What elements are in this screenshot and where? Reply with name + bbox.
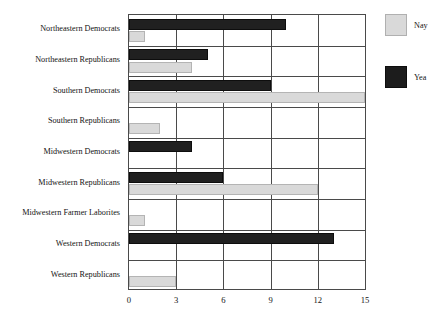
- category-separator: [129, 138, 365, 139]
- category-label: Midwestern Democrats: [0, 147, 120, 156]
- category-axis-labels: Northeastern DemocratsNortheastern Repub…: [0, 14, 124, 290]
- gridline-vertical: [271, 15, 272, 289]
- x-tick-label: 12: [314, 295, 323, 305]
- legend-item-yea[interactable]: Yea: [385, 66, 426, 88]
- category-separator: [129, 76, 365, 77]
- category-separator: [129, 260, 365, 261]
- bar-yea: [129, 172, 223, 183]
- bar-yea: [129, 233, 334, 244]
- chart-legend: NayYea: [385, 14, 443, 104]
- bar-yea: [129, 80, 271, 91]
- plot-area: [128, 14, 366, 290]
- legend-item-nay[interactable]: Nay: [385, 14, 428, 36]
- bar-nay: [129, 62, 192, 73]
- bar-nay: [129, 123, 160, 134]
- category-label: Midwestern Farmer Laborites: [0, 208, 120, 217]
- bar-chart: Northeastern DemocratsNortheastern Repub…: [0, 0, 443, 327]
- bar-nay: [129, 184, 318, 195]
- gridline-vertical: [318, 15, 319, 289]
- legend-swatch-yea: [385, 66, 407, 88]
- x-tick-label: 6: [221, 295, 225, 305]
- category-label: Northeastern Republicans: [0, 55, 120, 64]
- bar-yea: [129, 141, 192, 152]
- category-separator: [129, 46, 365, 47]
- gridline-vertical: [223, 15, 224, 289]
- legend-label: Yea: [414, 73, 426, 82]
- legend-label: Nay: [414, 21, 428, 30]
- category-label: Western Democrats: [0, 239, 120, 248]
- category-separator: [129, 230, 365, 231]
- x-tick-label: 3: [174, 295, 178, 305]
- x-tick-label: 9: [268, 295, 272, 305]
- category-separator: [129, 168, 365, 169]
- bar-yea: [129, 49, 208, 60]
- category-separator: [129, 199, 365, 200]
- legend-swatch-nay: [385, 14, 407, 36]
- bar-nay: [129, 276, 176, 287]
- category-label: Western Republicans: [0, 270, 120, 279]
- x-tick-label: 15: [361, 295, 370, 305]
- category-label: Midwestern Republicans: [0, 178, 120, 187]
- bar-nay: [129, 92, 365, 103]
- plot-inner: [129, 15, 365, 289]
- bar-yea: [129, 19, 286, 30]
- x-axis: 03691215: [128, 291, 366, 315]
- category-label: Southern Republicans: [0, 116, 120, 125]
- category-label: Northeastern Democrats: [0, 24, 120, 33]
- x-tick-label: 0: [127, 295, 131, 305]
- bar-nay: [129, 31, 145, 42]
- bar-nay: [129, 215, 145, 226]
- category-label: Southern Democrats: [0, 86, 120, 95]
- category-separator: [129, 107, 365, 108]
